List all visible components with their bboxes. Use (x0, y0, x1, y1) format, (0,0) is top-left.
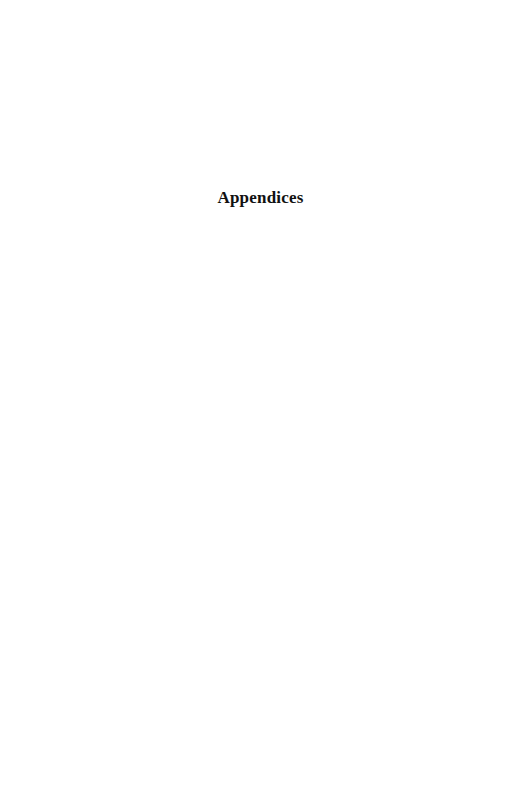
part-title: Appendices (0, 188, 521, 208)
document-page: Appendices (0, 0, 521, 790)
